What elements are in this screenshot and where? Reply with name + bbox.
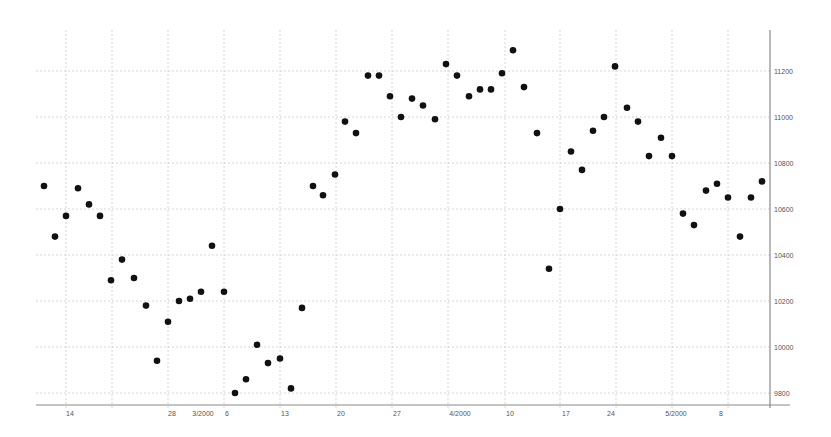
data-point <box>579 167 586 174</box>
data-point <box>635 118 642 125</box>
data-point <box>131 275 138 282</box>
data-point <box>759 178 766 185</box>
data-point <box>277 355 284 362</box>
data-point <box>432 116 439 123</box>
data-point <box>499 70 506 77</box>
x-tick-label: 20 <box>337 410 345 417</box>
data-point <box>353 130 360 137</box>
data-point <box>108 277 115 284</box>
data-point <box>488 86 495 93</box>
data-point <box>398 114 405 121</box>
x-tick-label: 14 <box>66 410 74 417</box>
data-point <box>557 206 564 213</box>
data-point <box>365 72 372 79</box>
x-tick-label: 28 <box>168 410 176 417</box>
data-point <box>63 213 70 220</box>
data-point <box>590 128 597 135</box>
data-point <box>714 180 721 187</box>
y-tick-label: 9800 <box>774 390 790 397</box>
data-point <box>703 187 710 194</box>
x-tick-label: 4/2000 <box>449 410 471 417</box>
x-tick-label: 3/2000 <box>192 410 214 417</box>
data-points <box>41 47 766 396</box>
vertical-gridlines <box>66 30 728 408</box>
data-point <box>510 47 517 54</box>
data-point <box>198 289 205 296</box>
data-point <box>646 153 653 160</box>
data-point <box>254 341 261 348</box>
data-point <box>443 61 450 68</box>
data-point <box>624 105 631 112</box>
y-tick-label: 10200 <box>774 298 794 305</box>
y-tick-label: 10400 <box>774 252 794 259</box>
data-point <box>119 256 126 263</box>
y-tick-label: 11000 <box>774 114 793 121</box>
data-point <box>612 63 619 70</box>
data-point <box>376 72 383 79</box>
data-point <box>466 93 473 100</box>
data-point <box>52 233 59 240</box>
data-point <box>342 118 349 125</box>
y-tick-label: 10600 <box>774 206 794 213</box>
data-point <box>299 305 306 312</box>
x-tick-label: 17 <box>562 410 570 417</box>
data-point <box>725 194 732 201</box>
data-point <box>288 385 295 392</box>
x-tick-label: 8 <box>719 410 723 417</box>
data-point <box>320 192 327 199</box>
x-tick-label: 13 <box>281 410 289 417</box>
x-tick-label: 6 <box>225 410 229 417</box>
data-point <box>737 233 744 240</box>
data-point <box>143 302 150 309</box>
data-point <box>332 171 339 178</box>
data-point <box>669 153 676 160</box>
data-point <box>387 93 394 100</box>
data-point <box>75 185 82 192</box>
data-point <box>243 376 250 383</box>
y-tick-label: 10000 <box>774 344 794 351</box>
y-axis-tick-labels: 980010000102001040010600108001100011200 <box>774 68 794 397</box>
data-point <box>165 318 172 325</box>
y-tick-label: 11200 <box>774 68 793 75</box>
data-point <box>97 213 104 220</box>
x-axis-tick-labels: 14283/200061320274/20001017245/20008 <box>66 410 723 417</box>
data-point <box>534 130 541 137</box>
scatter-chart: 980010000102001040010600108001100011200 … <box>0 0 831 437</box>
x-tick-label: 10 <box>506 410 514 417</box>
data-point <box>265 360 272 367</box>
data-point <box>221 289 228 296</box>
data-point <box>568 148 575 155</box>
data-point <box>454 72 461 79</box>
data-point <box>601 114 608 121</box>
x-tick-label: 27 <box>393 410 401 417</box>
data-point <box>420 102 427 109</box>
data-point <box>521 84 528 91</box>
data-point <box>176 298 183 305</box>
data-point <box>546 266 553 273</box>
x-tick-label: 5/2000 <box>665 410 687 417</box>
data-point <box>41 183 48 190</box>
data-point <box>477 86 484 93</box>
x-tick-label: 24 <box>607 410 615 417</box>
data-point <box>409 95 416 102</box>
y-tick-label: 10800 <box>774 160 794 167</box>
data-point <box>86 201 93 208</box>
data-point <box>310 183 317 190</box>
data-point <box>748 194 755 201</box>
data-point <box>154 358 161 365</box>
data-point <box>680 210 687 217</box>
data-point <box>232 390 239 397</box>
data-point <box>691 222 698 229</box>
data-point <box>658 134 665 141</box>
data-point <box>209 243 216 250</box>
data-point <box>187 295 194 302</box>
